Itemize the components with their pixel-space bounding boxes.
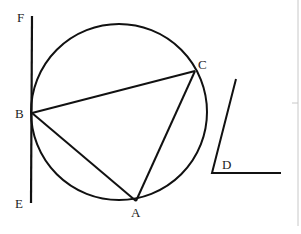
- chord-bc: [32, 71, 195, 113]
- geometry-diagram: F B E C A D: [0, 0, 301, 234]
- chord-ca: [136, 71, 195, 201]
- label-e: E: [15, 196, 23, 211]
- label-c: C: [198, 57, 207, 72]
- label-d: D: [222, 157, 231, 172]
- circle: [31, 24, 207, 200]
- label-f: F: [17, 10, 24, 25]
- label-b: B: [15, 106, 24, 121]
- chord-ba: [32, 113, 136, 201]
- label-a: A: [131, 205, 141, 220]
